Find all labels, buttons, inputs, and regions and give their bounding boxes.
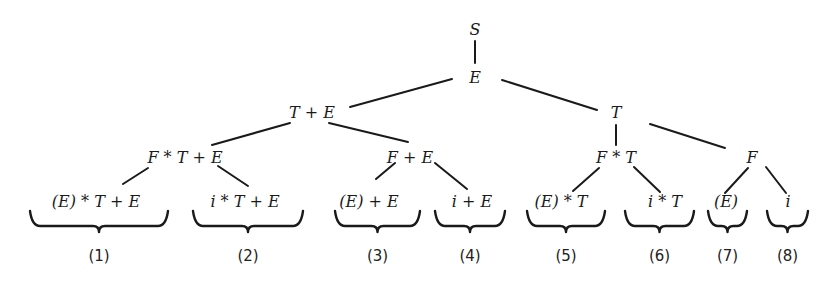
- underbrace-7: [708, 211, 747, 232]
- leaf-label-8: (8): [777, 249, 798, 264]
- node-F-times-T: F * T: [596, 150, 636, 166]
- node-F-plus-E: F + E: [387, 150, 433, 166]
- leaf-6: i * T: [648, 194, 682, 210]
- underbrace-3: [335, 211, 420, 232]
- leaf-label-3: (3): [367, 249, 388, 264]
- edge-E-TpE: [350, 79, 452, 107]
- underbrace-2: [193, 211, 303, 232]
- leaf-7: (E): [714, 194, 738, 210]
- node-S: S: [470, 22, 481, 38]
- node-F: F: [746, 150, 757, 166]
- leaf-1: (E) * T + E: [52, 194, 140, 210]
- edge-FsTpE-L1: [123, 168, 148, 184]
- underbrace-8: [767, 211, 808, 232]
- leaf-3: (E) + E: [339, 194, 398, 210]
- leaf-label-2: (2): [237, 249, 258, 264]
- leaf-label-4: (4): [459, 249, 480, 264]
- leaf-label-6: (6): [649, 249, 670, 264]
- edge-E-T: [502, 80, 597, 110]
- underbrace-5: [527, 211, 605, 232]
- tree-lines: [0, 0, 835, 285]
- leaf-label-1: (1): [88, 249, 109, 264]
- underbrace-4: [435, 211, 505, 232]
- leaf-8: i: [785, 194, 790, 210]
- edge-F-L8: [766, 167, 786, 193]
- node-T: T: [611, 105, 622, 121]
- edge-FpE-L4: [435, 163, 467, 189]
- underbrace-6: [625, 211, 694, 232]
- leaf-5: (E) * T: [534, 194, 587, 210]
- node-T-plus-E: T + E: [289, 105, 335, 121]
- node-F-times-T-plus-E: F * T + E: [147, 150, 222, 166]
- edge-TpE-FsTpE: [212, 123, 290, 145]
- leaf-label-5: (5): [555, 249, 576, 264]
- edge-T-F: [650, 124, 725, 148]
- edge-FsT-L6: [634, 167, 660, 192]
- leaf-4: i + E: [452, 194, 492, 210]
- edge-FsT-L5: [573, 168, 599, 191]
- derivation-tree: S E T + E T F * T + E F + E F * T F (E) …: [0, 0, 835, 285]
- leaf-label-7: (7): [717, 249, 738, 264]
- node-E: E: [469, 70, 481, 86]
- leaf-2: i * T + E: [210, 194, 279, 210]
- edge-FsTpE-L2: [218, 166, 248, 186]
- underbrace-1: [30, 211, 168, 232]
- edge-TpE-FpE: [329, 123, 408, 142]
- edge-F-L7: [725, 168, 748, 193]
